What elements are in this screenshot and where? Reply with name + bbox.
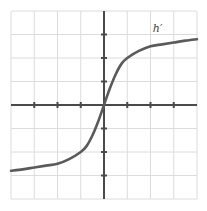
curve-label: h′ <box>153 22 163 35</box>
function-graph: h′ <box>0 0 207 211</box>
